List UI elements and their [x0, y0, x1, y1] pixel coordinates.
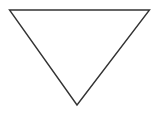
inverted-triangle-diagram [0, 0, 151, 119]
inverted-triangle-shape [10, 10, 150, 105]
diagram-canvas [0, 0, 151, 119]
